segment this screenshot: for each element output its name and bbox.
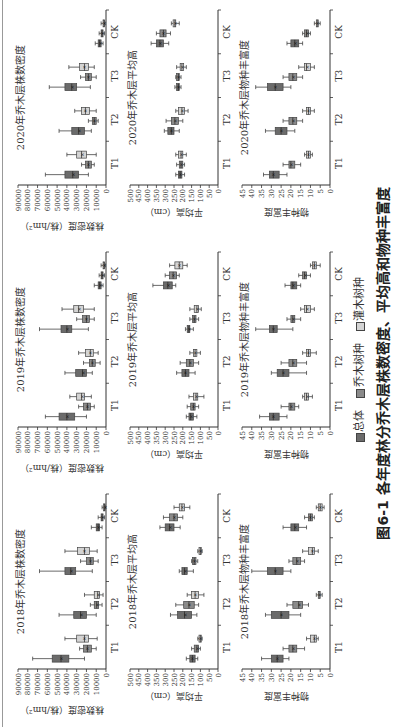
y-tick-label: 20 [287, 673, 295, 682]
y-tick-label: 45 [239, 673, 247, 682]
svg-text:×: × [302, 273, 308, 277]
legend-label-shrub: 灌木树种 [353, 277, 366, 321]
svg-text:×: × [99, 31, 105, 35]
y-tick-label: 50000 [54, 189, 62, 211]
x-tick-label: T3 [222, 553, 232, 565]
box-plot-grid: 0100002000030000400005000060000700008000… [0, 0, 345, 727]
svg-text:×: × [188, 415, 194, 419]
box-plot-panel: 051015202530354045物种丰富度2020年乔木层物种丰富度T1××… [238, 10, 344, 218]
y-axis-label: 株数密度（株/hm²） [20, 463, 104, 474]
svg-text:×: × [178, 153, 184, 157]
y-tick-label: 30 [268, 431, 276, 440]
svg-text:×: × [81, 65, 87, 69]
svg-text:×: × [70, 173, 76, 177]
y-tick-label: 20 [287, 431, 295, 440]
x-tick-label: CK [110, 267, 120, 281]
svg-text:×: × [190, 405, 196, 409]
y-tick-label: 15 [297, 673, 305, 682]
y-tick-label: 100 [197, 673, 205, 686]
y-tick-label: 30000 [73, 431, 81, 453]
x-tick-label: CK [334, 509, 344, 523]
y-tick-label: 250 [171, 189, 179, 202]
y-tick-label: 70000 [34, 673, 42, 695]
x-tick-label: T3 [110, 553, 120, 565]
y-tick-label: 10 [307, 673, 315, 682]
x-tick-label: T3 [334, 311, 344, 323]
x-tick-label: T1 [110, 157, 120, 169]
y-tick-label: 50000 [54, 673, 62, 695]
y-tick-label: 60000 [44, 189, 52, 211]
svg-text:×: × [191, 559, 197, 563]
y-tick-label: 40000 [63, 431, 71, 453]
legend-label-overall: 总体 [353, 410, 366, 432]
svg-text:×: × [81, 637, 87, 641]
y-tick-label: 25 [278, 189, 286, 198]
svg-text:×: × [87, 559, 93, 563]
x-tick-label: CK [222, 509, 232, 523]
svg-text:×: × [314, 21, 320, 25]
svg-text:×: × [167, 525, 173, 529]
y-tick-label: 80000 [24, 189, 32, 211]
box-plot-panel: 050100150200250300350400450500平均高（cm）201… [126, 252, 232, 460]
svg-text:×: × [278, 613, 284, 617]
box-plot-panel: 050100150200250300350400450500平均高（cm）202… [126, 10, 232, 218]
y-tick-label: 350 [153, 189, 161, 202]
y-axis-label: 物种丰富度 [264, 449, 309, 460]
box-plot-panel: 0100002000030000400005000060000700008000… [14, 494, 120, 716]
legend-swatch-overall [356, 434, 365, 443]
y-tick-label: 10 [307, 431, 315, 440]
y-tick-label: 10000 [93, 431, 101, 453]
x-tick-label: T2 [110, 356, 120, 368]
y-tick-label: 450 [135, 189, 143, 202]
x-tick-label: T1 [222, 157, 232, 169]
svg-text:×: × [270, 173, 276, 177]
y-tick-label: 60000 [44, 431, 52, 453]
svg-text:×: × [186, 603, 192, 607]
y-tick-label: 40000 [63, 189, 71, 211]
svg-text:×: × [307, 515, 313, 519]
svg-text:×: × [64, 327, 70, 331]
svg-text:×: × [79, 395, 85, 399]
y-tick-label: 30000 [73, 189, 81, 211]
figure-caption: 图6-1 各年度林分乔木层株数密度、平均高和物种丰富度 [372, 0, 392, 727]
svg-text:×: × [182, 371, 188, 375]
svg-text:×: × [192, 351, 198, 355]
box-plot-panel: 051015202530354045物种丰富度2019年乔木层物种丰富度T1××… [238, 252, 344, 460]
y-tick-label: 5 [317, 431, 325, 435]
y-tick-label: 80000 [24, 673, 32, 695]
y-tick-label: 150 [188, 673, 196, 686]
svg-text:×: × [292, 525, 298, 529]
legend-swatch-tree [356, 389, 365, 398]
x-tick-label: T3 [222, 311, 232, 323]
svg-text:×: × [175, 85, 181, 89]
svg-text:×: × [165, 283, 171, 287]
svg-text:×: × [290, 283, 296, 287]
top-rule [2, 0, 3, 727]
svg-text:×: × [304, 307, 310, 311]
svg-text:×: × [85, 75, 91, 79]
svg-text:×: × [187, 361, 193, 365]
svg-text:×: × [157, 41, 163, 45]
svg-text:×: × [58, 657, 64, 661]
y-tick-label: 40 [248, 189, 256, 198]
svg-text:×: × [83, 317, 89, 321]
y-tick-label: 5 [317, 189, 325, 193]
svg-text:×: × [272, 569, 278, 573]
y-tick-label: 20000 [83, 189, 91, 211]
y-axis-label: 平均高（cm） [145, 449, 204, 460]
svg-text:×: × [309, 549, 315, 553]
y-tick-label: 100 [197, 431, 205, 444]
y-tick-label: 500 [127, 189, 135, 202]
y-tick-label: 90000 [15, 673, 23, 695]
x-tick-label: T2 [222, 356, 232, 368]
y-tick-label: 35 [258, 189, 266, 198]
svg-text:×: × [99, 515, 105, 519]
y-tick-label: 25 [278, 673, 286, 682]
svg-text:×: × [84, 405, 90, 409]
x-tick-label: CK [110, 25, 120, 39]
x-tick-label: T2 [334, 598, 344, 610]
svg-text:×: × [85, 163, 91, 167]
y-tick-label: 10000 [93, 673, 101, 695]
y-tick-label: 400 [144, 189, 152, 202]
chart-title: 2018年乔木层物种丰富度 [238, 524, 250, 639]
